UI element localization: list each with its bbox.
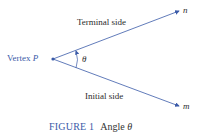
ray-n-label: n [183,5,188,15]
figure-caption: FIGURE 1Angle θ [49,121,132,132]
angle-symbol: θ [82,54,86,64]
figure-title: Angle θ [100,121,132,132]
terminal-side-label: Terminal side [77,17,126,27]
vertex-label: Vertex P [7,53,38,63]
figure-number: FIGURE 1 [49,121,94,132]
angle-arc [76,51,78,68]
initial-side-label: Initial side [85,91,123,101]
vertex-point [51,57,54,60]
ray-m-label: m [183,101,190,111]
